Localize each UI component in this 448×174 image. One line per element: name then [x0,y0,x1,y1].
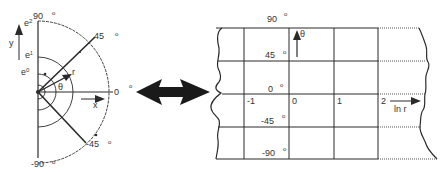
svg-text:o: o [52,10,56,16]
svg-text:o: o [284,11,288,17]
row-label-minus-90: -90 [262,148,275,158]
svg-text:o: o [283,146,287,152]
row-label-minus-45: -45 [261,116,274,126]
col-label-2: 2 [381,96,386,106]
y-arrowhead-icon [15,24,23,35]
angle-label-minus-45: -45 [86,139,99,149]
radius-label-e2: e2 [24,18,33,28]
svg-text:o: o [115,31,119,37]
svg-text:o: o [283,49,287,55]
col-label-minus-1: -1 [247,96,255,106]
angle-label-90: 90 [33,11,43,21]
torn-edge-left [211,28,222,159]
log-polar-grid [211,28,437,159]
torn-edge-right [419,28,437,159]
row-label-45: 45 [265,50,275,60]
line-minus-45 [38,92,86,143]
col-label-1: 1 [337,96,342,106]
svg-text:o: o [280,82,284,88]
angle-label-45: 45 [94,31,104,41]
col-label-0: 0 [292,96,297,106]
origin-dot [36,90,40,94]
y-axis-label: y [9,38,14,48]
angle-label-minus-90: -90 [31,159,44,169]
lnr-axis-label: ln r [394,104,407,114]
row-label-90: 90 [267,14,277,24]
diagram-canvas: 90 o 45 o 0 o -45 o -90 o e2 e1 e0 y x r… [0,0,448,174]
lnr-arrowhead-icon [411,97,421,105]
theta-label: θ [58,82,63,92]
svg-text:o: o [52,159,56,165]
svg-text:o: o [129,83,133,89]
radius-label-e0: e0 [21,67,30,77]
r-label: r [72,67,75,77]
line-45 [38,37,95,92]
row-label-0: 0 [268,84,273,94]
double-arrow-icon [136,79,210,105]
x-axis-label: x [93,100,98,110]
svg-text:o: o [108,139,112,145]
angle-label-0: 0 [114,87,119,97]
svg-text:o: o [282,113,286,119]
theta-axis-label: θ [300,29,305,39]
radius-label-e1: e1 [25,50,33,60]
